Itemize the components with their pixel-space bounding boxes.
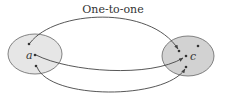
codomain-set-ellipse — [162, 36, 214, 76]
diagram-title: One-to-one — [0, 3, 226, 16]
codomain-point — [178, 50, 181, 53]
codomain-point — [197, 45, 200, 48]
domain-label: a — [26, 49, 33, 62]
domain-point — [35, 65, 38, 68]
codomain-label: c — [190, 50, 196, 63]
mapping-diagram: One-to-one a c — [0, 0, 226, 105]
domain-point — [28, 43, 31, 46]
codomain-point — [185, 55, 188, 58]
codomain-point — [185, 66, 188, 69]
domain-point — [34, 54, 37, 57]
